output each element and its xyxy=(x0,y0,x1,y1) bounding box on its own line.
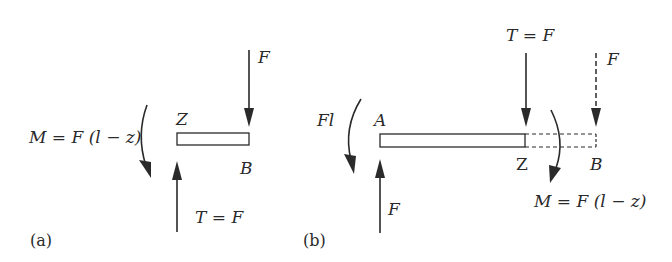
removed-force-label: F xyxy=(607,51,619,68)
end-b-label: B xyxy=(590,156,603,173)
shear-t-label: T = F xyxy=(195,209,243,226)
panel-a-tag: (a) xyxy=(30,233,52,249)
moment-arc-arrow xyxy=(141,105,147,166)
section-z-label: Z xyxy=(176,111,188,128)
reaction-moment-arc xyxy=(349,99,361,160)
end-b-label: B xyxy=(240,160,253,177)
beam-free-body-diagrams: F Z B M = F (l − z) T = F (a) Fl A F T =… xyxy=(0,0,672,262)
moment-label: M = F (l − z) xyxy=(29,129,141,146)
panel-a xyxy=(139,50,254,232)
section-z-label: Z xyxy=(516,156,528,173)
reaction-moment-label: Fl xyxy=(317,112,334,129)
support-a-label: A xyxy=(374,112,386,129)
reaction-force-label: F xyxy=(388,201,400,218)
panel-b-tag: (b) xyxy=(303,233,326,249)
section-moment-arc xyxy=(551,110,560,168)
beam-segment-zb xyxy=(177,133,249,145)
force-f-label: F xyxy=(258,49,270,66)
shear-t-label: T = F xyxy=(506,27,554,44)
beam-segment-az xyxy=(380,134,525,147)
moment-label: M = F (l − z) xyxy=(534,193,646,210)
